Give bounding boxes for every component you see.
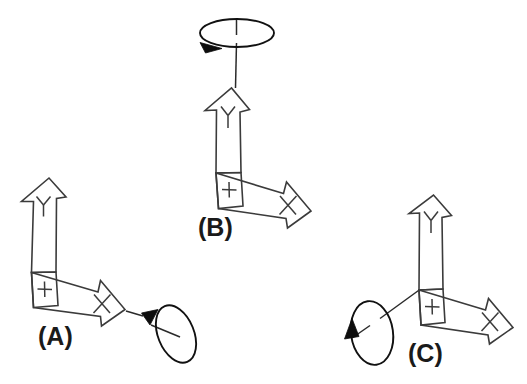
panel-c-label: (C) bbox=[408, 339, 443, 367]
panel-b-label: (B) bbox=[198, 213, 233, 241]
figure-canvas: (A) bbox=[0, 0, 527, 384]
axes-rotation-diagram: (A) bbox=[0, 0, 527, 384]
panel-a-label: (A) bbox=[38, 322, 73, 350]
